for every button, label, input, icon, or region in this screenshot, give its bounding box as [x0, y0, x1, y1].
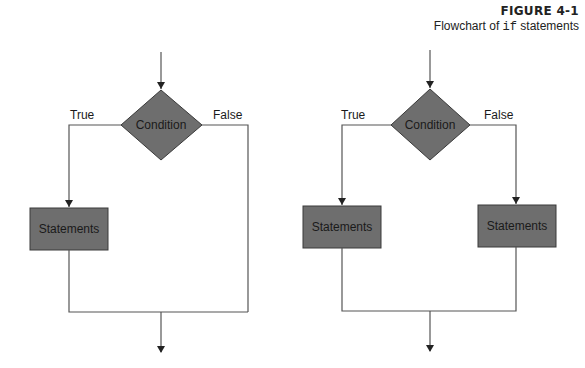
- condition-label: Condition: [136, 118, 187, 132]
- statements-label: Statements: [39, 222, 100, 236]
- arrow-head-icon: [338, 198, 346, 205]
- arrow-head-icon: [65, 200, 73, 207]
- true-label: True: [70, 108, 95, 122]
- flowchart-if: Condition True False Statements: [30, 52, 248, 353]
- false-branch-line: [470, 125, 516, 204]
- merge-line: [342, 247, 516, 311]
- false-statements-label: Statements: [487, 219, 548, 233]
- false-label: False: [213, 108, 243, 122]
- true-statements-label: Statements: [312, 220, 373, 234]
- flowcharts: Condition True False Statements Conditio…: [0, 0, 585, 368]
- true-label: True: [341, 108, 366, 122]
- arrow-head-icon: [157, 82, 165, 89]
- true-branch-line: [342, 125, 391, 205]
- false-branch-line: [202, 125, 248, 312]
- true-branch-line: [69, 125, 121, 207]
- arrow-head-icon: [157, 346, 165, 353]
- arrow-head-icon: [426, 81, 434, 88]
- flowchart-if-else: Condition True False Statements Statemen…: [303, 50, 556, 352]
- arrow-head-icon: [512, 197, 520, 204]
- false-label: False: [484, 108, 514, 122]
- condition-label: Condition: [405, 118, 456, 132]
- arrow-head-icon: [426, 345, 434, 352]
- merge-line: [69, 250, 248, 312]
